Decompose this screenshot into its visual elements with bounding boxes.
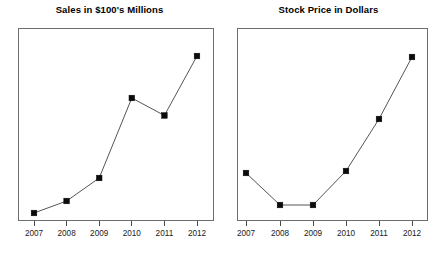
stock-point-2012	[409, 54, 415, 60]
sales-xtick-label-5: 2012	[188, 229, 207, 238]
sales-point-2007	[31, 210, 37, 216]
sales-xtick-label-2: 2009	[90, 229, 109, 238]
stock-xtick-label-0: 2007	[237, 229, 256, 238]
sales-chart-svg: 2007 2008 2009 2010 2011 2012	[0, 0, 219, 253]
sales-point-2009	[96, 175, 102, 181]
stock-xtick-label-5: 2012	[403, 229, 422, 238]
stock-x-axis-ticks	[246, 221, 412, 226]
stock-xtick-label-3: 2010	[337, 229, 356, 238]
sales-point-2010	[129, 95, 135, 101]
stock-point-2011	[376, 116, 382, 122]
stock-chart-svg: 2007 2008 2009 2010 2011 2012	[219, 0, 439, 253]
sales-xtick-label-4: 2011	[156, 229, 174, 238]
sales-point-2012	[194, 53, 200, 59]
charts-row: Sales in $100's Millions 200	[0, 0, 439, 253]
sales-point-2011	[162, 113, 168, 119]
chart-panel-sales: Sales in $100's Millions 200	[0, 0, 219, 253]
sales-plot-frame	[19, 29, 214, 221]
stock-xtick-label-4: 2011	[370, 229, 388, 238]
sales-x-axis-ticks	[34, 221, 197, 226]
sales-xtick-label-0: 2007	[25, 229, 44, 238]
stock-point-2010	[343, 168, 349, 174]
stock-point-2009	[310, 202, 316, 208]
stock-x-axis-labels: 2007 2008 2009 2010 2011 2012	[237, 229, 422, 238]
sales-xtick-label-3: 2010	[123, 229, 142, 238]
chart-panel-stock: Stock Price in Dollars 2007	[219, 0, 438, 253]
stock-xtick-label-2: 2009	[304, 229, 323, 238]
sales-x-axis-labels: 2007 2008 2009 2010 2011 2012	[25, 229, 207, 238]
stock-xtick-label-1: 2008	[271, 229, 290, 238]
stock-point-2007	[243, 170, 249, 176]
sales-point-2008	[64, 198, 70, 204]
sales-xtick-label-1: 2008	[57, 229, 76, 238]
stock-point-2008	[277, 202, 283, 208]
